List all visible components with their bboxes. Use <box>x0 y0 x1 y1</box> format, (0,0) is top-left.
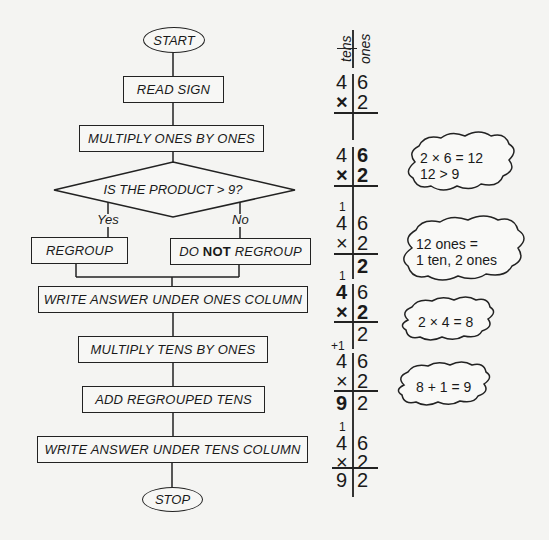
ones-digit: 6 <box>357 282 368 302</box>
stop-terminal: STOP <box>142 487 203 512</box>
read-sign-step: READ SIGN <box>123 76 224 103</box>
column-divider <box>352 30 354 68</box>
do-not-regroup-label: DO NOT REGROUP <box>179 244 302 259</box>
result-ones-digit: 2 <box>357 256 368 276</box>
tens-digit: 4 <box>336 213 347 233</box>
thought-cloud-1: 2 × 6 = 12 12 > 9 <box>420 150 483 182</box>
column-divider <box>352 353 354 421</box>
header-rule <box>337 48 357 49</box>
multiplier-digit: 2 <box>357 165 368 185</box>
times-sign: × <box>336 165 348 185</box>
times-sign: × <box>336 92 348 112</box>
times-sign: × <box>336 371 348 391</box>
start-label: START <box>153 33 194 48</box>
decision-label: IS THE PRODUCT > 9? <box>100 182 246 197</box>
result-ones-digit: 2 <box>357 393 368 413</box>
ones-digit: 6 <box>357 351 368 371</box>
add-regrouped-label: ADD REGROUPED TENS <box>95 392 252 407</box>
times-sign: × <box>336 302 348 322</box>
start-terminal: START <box>143 27 205 53</box>
do-not-pre: DO <box>179 244 203 259</box>
times-sign: × <box>336 233 348 253</box>
multiply-tens-step: MULTIPLY TENS BY ONES <box>78 336 268 363</box>
yes-label: Yes <box>97 212 119 227</box>
stop-label: STOP <box>155 492 190 507</box>
ones-digit: 6 <box>357 213 368 233</box>
ones-digit: 6 <box>357 72 368 92</box>
tens-digit: 4 <box>336 433 347 453</box>
read-sign-label: READ SIGN <box>137 82 210 97</box>
result-tens-digit: 9 <box>336 470 347 490</box>
column-divider <box>352 215 354 279</box>
add-regrouped-step: ADD REGROUPED TENS <box>82 386 265 413</box>
cloud-line: 1 ten, 2 ones <box>416 252 497 268</box>
thought-cloud-3: 2 × 4 = 8 <box>418 314 473 330</box>
multiplier-digit: 2 <box>357 371 368 391</box>
product-rule <box>334 321 378 323</box>
write-tens-label: WRITE ANSWER UNDER TENS COLUMN <box>44 442 300 457</box>
cloud-line: 2 × 6 = 12 <box>420 150 483 166</box>
write-ones-step: WRITE ANSWER UNDER ONES COLUMN <box>38 286 308 313</box>
ones-header: ones <box>357 34 373 64</box>
ones-digit: 6 <box>357 145 368 165</box>
cloud-line: 2 × 4 = 8 <box>418 314 473 330</box>
result-ones-digit: 2 <box>357 470 368 490</box>
write-ones-label: WRITE ANSWER UNDER ONES COLUMN <box>44 292 302 307</box>
tens-digit: 4 <box>336 72 347 92</box>
multiplier-digit: 2 <box>357 302 368 322</box>
thought-cloud-2: 12 ones = 1 ten, 2 ones <box>416 236 497 268</box>
regroup-step: REGROUP <box>31 237 128 264</box>
multiply-tens-label: MULTIPLY TENS BY ONES <box>91 342 256 357</box>
product-rule <box>334 253 378 255</box>
tens-digit: 4 <box>336 145 347 165</box>
regroup-label: REGROUP <box>46 243 113 258</box>
cloud-line: 8 + 1 = 9 <box>416 379 471 395</box>
column-divider <box>352 74 354 140</box>
column-divider <box>352 421 354 497</box>
product-rule <box>334 185 378 187</box>
do-not-post: REGROUP <box>231 244 302 259</box>
column-divider <box>352 147 354 215</box>
result-tens-digit: 9 <box>336 393 347 413</box>
cloud-line: 12 ones = <box>416 236 497 252</box>
no-label: No <box>232 212 249 227</box>
write-tens-step: WRITE ANSWER UNDER TENS COLUMN <box>37 436 308 463</box>
result-ones-digit: 2 <box>357 324 368 344</box>
multiplier-digit: 2 <box>357 92 368 112</box>
tens-digit: 4 <box>336 351 347 371</box>
thought-cloud-4: 8 + 1 = 9 <box>416 379 471 395</box>
cloud-line: 12 > 9 <box>420 166 483 182</box>
decision-text: IS THE PRODUCT > 9? <box>103 182 242 197</box>
do-not-regroup-step: DO NOT REGROUP <box>170 238 311 265</box>
multiply-ones-label: MULTIPLY ONES BY ONES <box>88 131 255 146</box>
column-divider <box>352 284 354 349</box>
product-rule <box>334 112 378 114</box>
ones-digit: 6 <box>357 433 368 453</box>
not-emphasis: NOT <box>203 244 231 259</box>
multiply-ones-step: MULTIPLY ONES BY ONES <box>79 125 264 152</box>
tens-digit: 4 <box>336 282 347 302</box>
multiplier-digit: 2 <box>357 233 368 253</box>
